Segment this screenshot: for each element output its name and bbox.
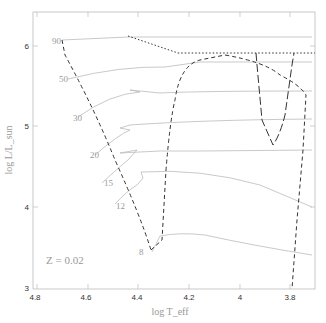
boundary-lines (62, 40, 306, 289)
mass-label: 30 (73, 113, 83, 123)
y-tick-label: 5 (25, 122, 30, 131)
x-tick-label: 4.4 (131, 293, 143, 302)
mass-label: 90 (52, 36, 62, 46)
x-axis-label: log T_eff (151, 306, 189, 317)
mass-label: 50 (59, 74, 69, 84)
dotted-limit-line (128, 36, 315, 53)
mass-label: 12 (116, 201, 125, 211)
x-tick-label: 4.6 (80, 293, 92, 302)
y-tick-label: 4 (25, 203, 30, 212)
metallicity-annotation: Z = 0.02 (46, 254, 84, 266)
x-tick-label: 4.8 (29, 293, 41, 302)
x-tick-label: 3.8 (284, 293, 296, 302)
y-tick-label: 3 (25, 284, 30, 293)
mass-label: 8 (139, 247, 144, 257)
mass-label: 15 (104, 178, 114, 188)
y-tick-label: 6 (25, 42, 30, 51)
long-dash-loop (256, 53, 294, 145)
y-axis-label: log L/L_sun (3, 125, 14, 174)
mass-label: 20 (90, 150, 100, 160)
hr-diagram: 4.8 4.6 4.4 4.2 4 3.8 3 4 5 6 log T_eff … (0, 0, 326, 323)
x-tick-label: 4.2 (183, 293, 195, 302)
evolutionary-tracks (62, 37, 312, 255)
x-tick-label: 4 (238, 293, 243, 302)
